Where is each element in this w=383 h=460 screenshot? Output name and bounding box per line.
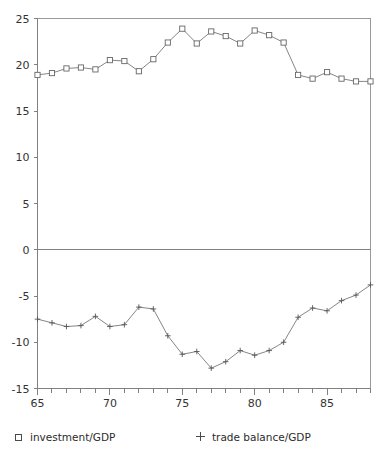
investment-point: [78, 65, 83, 70]
investment-point: [35, 72, 40, 77]
chart-figure: 2520151050-5-10-15 6570758085 investment…: [0, 0, 383, 460]
investment-point: [353, 79, 358, 84]
investment-point: [267, 33, 272, 38]
x-tick-label: 70: [103, 397, 117, 410]
investment-point: [281, 40, 286, 45]
x-tick-label: 85: [320, 397, 334, 410]
x-tick-label: 80: [248, 397, 262, 410]
y-axis-tick-labels: 2520151050-5-10-15: [12, 13, 30, 396]
investment-line: [38, 29, 371, 82]
investment-point: [238, 41, 243, 46]
investment-point: [194, 41, 199, 46]
y-tick-label: 20: [16, 59, 30, 72]
investment-point: [122, 58, 127, 63]
chart-canvas: 2520151050-5-10-15 6570758085: [0, 0, 383, 460]
y-tick-label: 5: [23, 198, 30, 211]
y-tick-label: -5: [19, 290, 30, 303]
investment-point: [310, 76, 315, 81]
legend-item-investment: investment/GDP: [14, 432, 115, 443]
investment-point: [324, 70, 329, 75]
series-investment-gdp: [35, 26, 373, 84]
square-marker-icon: [14, 432, 23, 442]
legend-item-trade-balance: trade balance/GDP: [196, 432, 311, 443]
investment-point: [296, 72, 301, 77]
investment-point: [93, 67, 98, 72]
investment-point: [339, 76, 344, 81]
investment-point: [209, 29, 214, 34]
y-tick-label: -10: [12, 336, 30, 349]
investment-point: [151, 57, 156, 62]
investment-point: [64, 66, 69, 71]
chart-legend: investment/GDP trade balance/GDP: [0, 430, 383, 454]
x-tick-label: 65: [31, 397, 45, 410]
investment-point: [165, 40, 170, 45]
y-tick-label: 25: [16, 13, 30, 26]
trade-balance-line: [38, 285, 371, 368]
y-tick-label: 0: [23, 244, 30, 257]
series-trade-balance-gdp: [35, 282, 374, 371]
legend-label-trade-balance: trade balance/GDP: [212, 432, 311, 443]
plot-frame: [38, 19, 371, 389]
y-tick-label: 10: [16, 151, 30, 164]
x-tick-label: 75: [175, 397, 189, 410]
investment-point: [180, 26, 185, 31]
investment-point: [223, 33, 228, 38]
y-tick-label: 15: [16, 105, 30, 118]
legend-label-investment: investment/GDP: [30, 432, 115, 443]
investment-point: [252, 28, 257, 33]
x-axis-ticks: [38, 389, 371, 395]
chart-frame: [38, 19, 371, 389]
investment-point: [136, 69, 141, 74]
x-axis-tick-labels: 6570758085: [31, 397, 335, 410]
investment-point: [107, 58, 112, 63]
plus-marker-icon: [196, 432, 205, 442]
investment-point: [49, 70, 54, 75]
y-tick-label: -15: [12, 383, 30, 396]
investment-point: [368, 79, 373, 84]
